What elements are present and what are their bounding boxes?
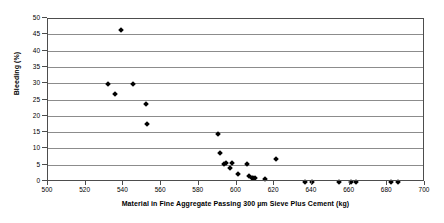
x-tick-mark — [47, 181, 48, 185]
gridline — [48, 67, 423, 68]
y-tick-mark — [42, 82, 47, 83]
y-tick-label: 50 — [16, 14, 40, 21]
x-tick-label: 600 — [221, 186, 251, 193]
gridline — [48, 132, 423, 133]
x-tick-mark — [85, 181, 86, 185]
data-point — [221, 162, 227, 168]
x-tick-mark — [198, 181, 199, 185]
y-tick-mark — [42, 115, 47, 116]
x-tick-label: 520 — [70, 186, 100, 193]
x-tick-mark — [236, 181, 237, 185]
x-tick-mark — [122, 181, 123, 185]
data-point — [143, 101, 149, 107]
x-tick-label: 640 — [296, 186, 326, 193]
data-point — [130, 81, 136, 87]
gridline — [48, 100, 423, 101]
data-point — [144, 121, 150, 127]
gridline — [48, 51, 423, 52]
x-tick-mark — [349, 181, 350, 185]
gridline — [48, 165, 423, 166]
x-tick-label: 580 — [183, 186, 213, 193]
x-tick-label: 560 — [145, 186, 175, 193]
data-point — [118, 28, 124, 34]
y-tick-label: 5 — [16, 161, 40, 168]
y-tick-label: 10 — [16, 144, 40, 151]
x-tick-mark — [424, 181, 425, 185]
y-tick-mark — [42, 99, 47, 100]
x-tick-mark — [386, 181, 387, 185]
y-tick-label: 30 — [16, 79, 40, 86]
y-tick-label: 35 — [16, 63, 40, 70]
data-point — [112, 91, 118, 97]
x-tick-mark — [311, 181, 312, 185]
x-axis-title: Material in Fine Aggregate Passing 300 µ… — [47, 200, 424, 207]
y-tick-label: 45 — [16, 30, 40, 37]
y-tick-label: 15 — [16, 128, 40, 135]
y-tick-mark — [42, 33, 47, 34]
y-tick-mark — [42, 50, 47, 51]
x-tick-mark — [160, 181, 161, 185]
data-point — [244, 161, 250, 167]
x-tick-label: 660 — [334, 186, 364, 193]
x-tick-label: 680 — [371, 186, 401, 193]
gridline — [48, 34, 423, 35]
data-point — [236, 171, 242, 177]
x-tick-label: 700 — [409, 186, 439, 193]
x-tick-label: 620 — [258, 186, 288, 193]
plot-area — [47, 18, 424, 181]
y-tick-mark — [42, 17, 47, 18]
data-point — [218, 150, 224, 156]
y-tick-mark — [42, 147, 47, 148]
data-point — [273, 156, 279, 162]
y-tick-mark — [42, 66, 47, 67]
y-tick-label: 20 — [16, 112, 40, 119]
y-axis-title: Bleeding (%) — [13, 24, 20, 124]
y-tick-label: 40 — [16, 47, 40, 54]
gridline — [48, 116, 423, 117]
y-tick-label: 25 — [16, 96, 40, 103]
gridline — [48, 148, 423, 149]
y-tick-mark — [42, 164, 47, 165]
data-point — [215, 132, 221, 138]
y-tick-label: 0 — [16, 177, 40, 184]
x-tick-mark — [273, 181, 274, 185]
y-tick-mark — [42, 131, 47, 132]
scatter-chart-figure: Bleeding (%) 05101520253035404550 500520… — [0, 0, 444, 223]
x-tick-label: 500 — [32, 186, 62, 193]
data-point — [227, 165, 233, 171]
x-tick-label: 540 — [107, 186, 137, 193]
